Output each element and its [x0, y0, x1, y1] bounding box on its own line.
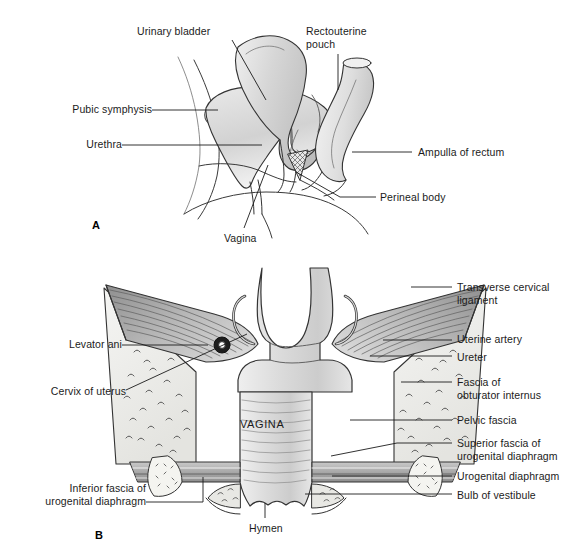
- ampulla-of-rectum-shape: [316, 62, 374, 182]
- panel-b-coronal-drawing: [104, 268, 486, 514]
- label-urogenital-diaphragm: Urogenital diaphragm: [457, 470, 559, 483]
- label-vagina-a: Vagina: [224, 232, 257, 245]
- label-uterine-artery: Uterine artery: [457, 333, 522, 346]
- uterus-cervix-shape: [238, 268, 352, 392]
- panel-letter-a: A: [92, 219, 100, 231]
- label-pubic-symphysis: Pubic symphysis: [0, 103, 152, 116]
- urethra-shape: [250, 182, 254, 214]
- panel-a-sagittal-drawing: [178, 36, 374, 238]
- label-fascia-of-obturator-internus: Fascia of obturator internus: [457, 376, 541, 401]
- label-rectouterine-pouch: Rectouterine pouch: [306, 25, 367, 50]
- label-urethra: Urethra: [0, 138, 122, 151]
- label-urinary-bladder: Urinary bladder: [137, 25, 210, 38]
- label-cervix-of-uterus: Cervix of uterus: [0, 385, 126, 398]
- label-vagina-b: VAGINA: [240, 418, 284, 430]
- label-transverse-cervical-ligament: Transverse cervical ligament: [457, 281, 550, 306]
- urogenital-diaphragm-left: [130, 462, 240, 482]
- label-ampulla-of-rectum: Ampulla of rectum: [418, 146, 504, 159]
- label-ureter: Ureter: [457, 351, 487, 364]
- vagina-canal-shape: [240, 392, 312, 506]
- panel-letter-b: B: [95, 529, 103, 541]
- label-inferior-fascia-ug-diaphragm: Inferior fascia of urogenital diaphragm: [0, 482, 146, 507]
- label-superior-fascia-ug-diaphragm: Superior fascia of urogenital diaphragm: [457, 437, 558, 462]
- label-pelvic-fascia: Pelvic fascia: [457, 414, 517, 427]
- label-bulb-of-vestibule: Bulb of vestibule: [457, 489, 536, 502]
- label-levator-ani: Levator ani: [0, 338, 122, 351]
- label-perineal-body: Perineal body: [380, 191, 446, 204]
- label-hymen: Hymen: [249, 522, 283, 535]
